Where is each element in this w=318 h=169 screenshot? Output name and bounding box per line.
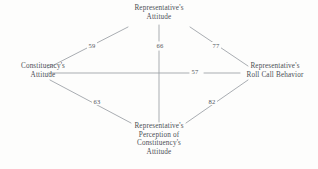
- node-line: Roll Call Behavior: [234, 71, 316, 80]
- node-constituencys-attitude: Constituency's Attitude: [4, 62, 82, 79]
- edge-value-rep-perception-to-roll-call: 82: [207, 98, 217, 105]
- node-representatives-attitude: Representative's Attitude: [109, 4, 209, 21]
- representation-path-diagram: Representative's Attitude Constituency's…: [0, 0, 318, 169]
- node-line: Perception of: [108, 131, 210, 140]
- node-line: Attitude: [4, 71, 82, 80]
- edge-value-rep-attitude-to-roll-call: 77: [211, 42, 221, 49]
- node-representatives-roll-call-behavior: Representative's Roll Call Behavior: [234, 62, 316, 79]
- node-line: Constituency's: [4, 62, 82, 71]
- node-line: Attitude: [108, 148, 210, 157]
- node-line: Constituency's: [108, 139, 210, 148]
- node-line: Representative's: [109, 4, 209, 13]
- edge-rep-perception-to-roll-call: [186, 80, 248, 123]
- node-representatives-perception-of-constituencys-attitude: Representative's Perception of Constitue…: [108, 122, 210, 156]
- edge-value-const-attitude-to-rep-perception: 63: [92, 98, 102, 105]
- node-line: Representative's: [234, 62, 316, 71]
- edge-value-rep-attitude-to-rep-perception: 66: [155, 42, 165, 49]
- edge-const-attitude-to-rep-perception: [50, 80, 131, 123]
- node-line: Attitude: [109, 13, 209, 22]
- edge-value-const-attitude-to-rep-attitude: 59: [87, 42, 97, 49]
- node-line: Representative's: [108, 122, 210, 131]
- edge-value-const-attitude-to-roll-call: 57: [190, 68, 200, 75]
